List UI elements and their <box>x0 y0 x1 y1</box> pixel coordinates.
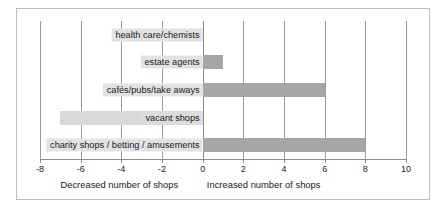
tick-mark <box>40 159 41 163</box>
bar-category-label: cafés/pubs/take aways <box>103 83 203 96</box>
chart-figure: health care/chemistsestate agentscafés/p… <box>16 8 430 200</box>
bar-row: vacant shops <box>40 104 406 132</box>
tick-mark <box>365 159 366 163</box>
tick-mark <box>243 159 244 163</box>
tick-label: -2 <box>158 164 166 174</box>
tick-mark <box>81 159 82 163</box>
bar-category-label: estate agents <box>140 56 202 69</box>
tick-label: -8 <box>36 164 44 174</box>
increased-axis-caption: Increased number of shops <box>207 179 321 190</box>
tick-label: 2 <box>241 164 246 174</box>
bar <box>203 83 325 97</box>
bar <box>203 138 366 152</box>
bar-category-label: charity shops / betting / amusements <box>46 139 203 152</box>
tick-mark <box>406 159 407 163</box>
bar-series: health care/chemistsestate agentscafés/p… <box>40 21 406 159</box>
tick-mark <box>203 159 204 163</box>
tick-label: -6 <box>77 164 85 174</box>
decreased-axis-caption: Decreased number of shops <box>60 179 178 190</box>
tick-label: 10 <box>401 164 411 174</box>
tick-mark <box>121 159 122 163</box>
gridline <box>406 21 407 159</box>
bar-category-label: health care/chemists <box>111 28 202 41</box>
tick-mark <box>162 159 163 163</box>
tick-label: 6 <box>322 164 327 174</box>
bar-row: cafés/pubs/take aways <box>40 76 406 104</box>
bar-row: estate agents <box>40 49 406 77</box>
tick-mark <box>284 159 285 163</box>
tick-label: 0 <box>200 164 205 174</box>
tick-mark <box>325 159 326 163</box>
bar-row: charity shops / betting / amusements <box>40 131 406 159</box>
tick-label: 4 <box>281 164 286 174</box>
bar <box>203 55 223 69</box>
bar-row: health care/chemists <box>40 21 406 49</box>
x-axis-line <box>40 159 407 160</box>
tick-label: 8 <box>363 164 368 174</box>
tick-label: -4 <box>117 164 125 174</box>
bar-category-label: vacant shops <box>142 111 203 124</box>
plot-area: health care/chemistsestate agentscafés/p… <box>40 21 406 159</box>
